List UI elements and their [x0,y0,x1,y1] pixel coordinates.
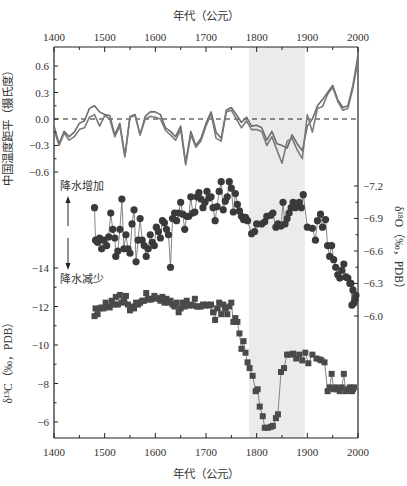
d18o-tick-label: −6.3 [363,277,383,289]
d18o-tick-label: −7.2 [363,180,383,192]
x-tick-label-bottom: 1800 [246,446,269,458]
x-tick-label-top: 1400 [43,31,66,43]
d13c-tick-label: −10 [32,339,50,351]
shaded-period [249,47,305,438]
precip-increase-label: 降水增加 [60,179,104,192]
d13c-axis-title: δ¹³C（‰，PDB） [2,317,14,404]
x-tick-label-top: 1500 [94,31,117,43]
temp-tick-label: 0.0 [35,113,49,125]
d18o-tick-label: −6.6 [363,245,383,257]
chart-canvas: 1400140015001500160016001700170018001800… [0,0,407,486]
temp-tick-label: 0.3 [35,87,49,99]
x-tick-label-bottom: 1500 [94,446,117,458]
temperature-axis-title: 中国温度距平（摄氏度） [1,65,14,186]
d18o-tick-label: −6.9 [363,212,383,224]
temp-tick-label: −0.6 [29,166,49,178]
x-tick-label-top: 1600 [144,31,167,43]
d13c-tick-label: −14 [32,262,50,274]
d13c-tick-label: −12 [32,301,49,313]
bottom-x-axis-title: 年代（公元） [173,467,239,480]
x-tick-label-top: 1900 [296,31,319,43]
x-tick-label-bottom: 2000 [347,446,370,458]
x-tick-label-top: 2000 [347,31,370,43]
temp-tick-label: 0.6 [35,60,49,72]
x-tick-label-bottom: 1900 [296,446,319,458]
x-tick-label-bottom: 1600 [144,446,167,458]
temp-tick-label: −0.3 [29,139,49,151]
x-tick-label-top: 1700 [195,31,218,43]
x-tick-label-bottom: 1700 [195,446,218,458]
d18o-tick-label: −6.0 [363,310,383,322]
d13c-tick-label: −8 [37,378,49,390]
x-tick-label-bottom: 1400 [43,446,66,458]
top-x-axis-title: 年代（公元） [173,9,239,22]
precip-decrease-label: 降水减少 [60,272,104,285]
d13c-tick-label: −6 [37,416,49,428]
x-tick-label-top: 1800 [246,31,269,43]
d18o-axis-title: δ¹⁸O（‰，PDB） [393,206,405,294]
paleoclimate-chart: 1400140015001500160016001700170018001800… [0,0,407,486]
